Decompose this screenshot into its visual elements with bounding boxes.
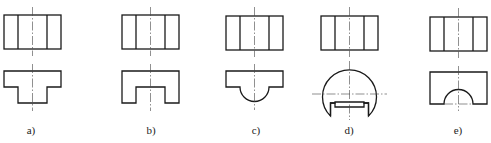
panel-a-label: a) — [27, 124, 36, 136]
technical-drawing-figure — [0, 0, 491, 143]
panel-a — [4, 7, 61, 111]
panel-d — [312, 7, 387, 120]
panel-e-label: e) — [454, 124, 463, 136]
panel-e-front-view — [430, 66, 487, 111]
panel-b-front-view — [122, 64, 179, 111]
panel-b — [122, 7, 179, 111]
panel-a-front-view — [4, 64, 61, 111]
panel-d-label: d) — [344, 124, 353, 136]
panel-b-top-view — [122, 7, 179, 56]
panel-e — [430, 8, 487, 111]
panel-c — [226, 7, 283, 110]
panel-d-front-view — [312, 61, 387, 120]
panel-d-top-view — [321, 7, 378, 57]
panel-c-label: c) — [252, 124, 261, 136]
panel-c-top-view — [226, 7, 283, 57]
panel-c-front-view — [226, 64, 283, 110]
panel-a-top-view — [4, 7, 61, 56]
panel-e-top-view — [430, 8, 487, 58]
panel-b-label: b) — [146, 124, 155, 136]
